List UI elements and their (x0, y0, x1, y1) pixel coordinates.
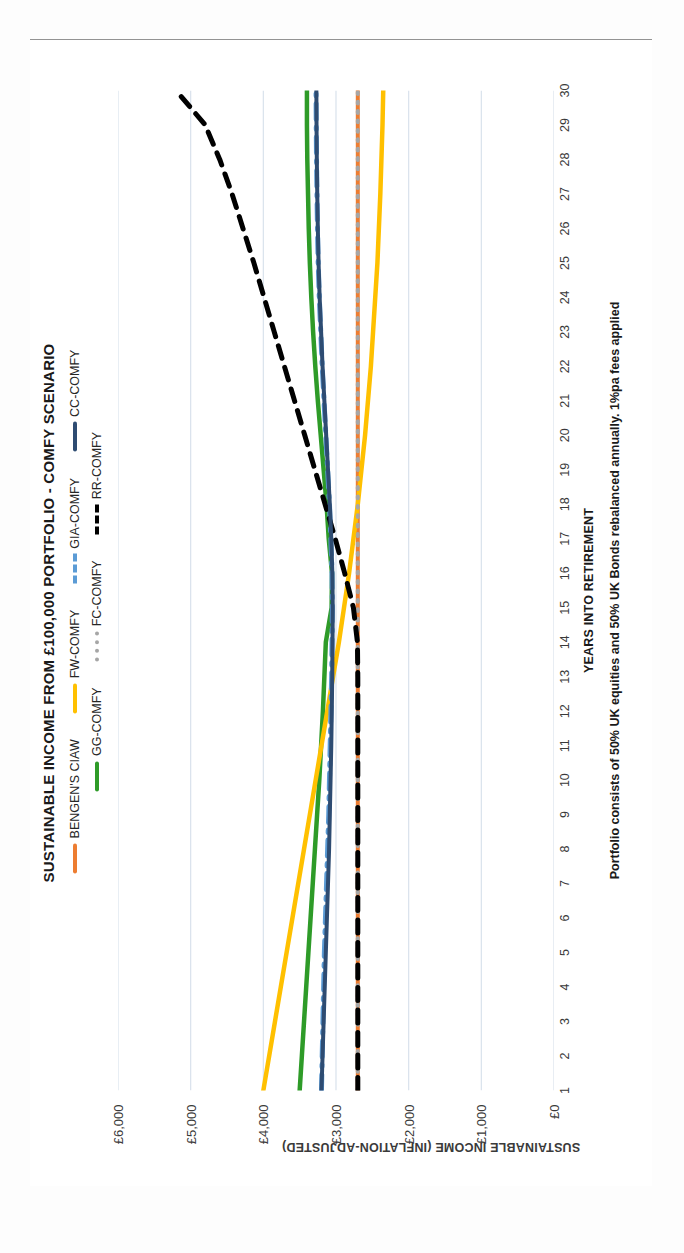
x-axis-tick-labels: 1234567891011121314151617181920212223242… (558, 90, 578, 1090)
x-tick-label: 6 (558, 914, 572, 921)
legend-swatch-fc-comfy (95, 631, 99, 661)
chart-title: SUSTAINABLE INCOME FROM £100,000 PORTFOL… (40, 39, 57, 1186)
x-tick-label: 9 (558, 811, 572, 818)
legend-swatch-cc-comfy (73, 421, 77, 451)
legend-item[interactable]: GIA-COMFY (68, 477, 82, 583)
legend-label: CC-COMFY (68, 349, 82, 416)
legend-swatch-fw-comfy (73, 683, 77, 713)
x-tick-label: 3 (558, 1018, 572, 1025)
legend-item[interactable]: RR-COMFY (90, 431, 104, 533)
legend-item[interactable]: FW-COMFY (68, 609, 82, 713)
x-tick-label: 17 (558, 531, 572, 545)
legend-item[interactable]: CC-COMFY (68, 349, 82, 451)
legend-row-1: BENGEN'S CIAWFW-COMFYGIA-COMFYCC-COMFY (64, 86, 86, 1136)
y-tick-label: £5,000 (183, 1104, 198, 1144)
legend-label: GIA-COMFY (68, 477, 82, 548)
y-tick-label: £2,000 (401, 1104, 416, 1144)
x-tick-label: 26 (558, 221, 572, 235)
legend-item[interactable]: BENGEN'S CIAW (68, 739, 82, 873)
legend-item[interactable]: FC-COMFY (90, 560, 104, 661)
x-axis-title: YEARS INTO RETIREMENT (582, 90, 596, 1090)
x-tick-label: 30 (558, 83, 572, 97)
x-tick-label: 14 (558, 635, 572, 649)
legend-item[interactable]: GG-COMFY (90, 687, 104, 791)
legend-label: FC-COMFY (90, 560, 104, 626)
legend-swatch-bengens-ciaw (73, 843, 77, 873)
chart-footnote: Portfolio consists of 50% UK equities an… (608, 90, 622, 1090)
legend-label: GG-COMFY (90, 687, 104, 756)
y-tick-label: £3,000 (329, 1104, 344, 1144)
scanned-page: SUSTAINABLE INCOME FROM £100,000 PORTFOL… (0, 0, 684, 1253)
x-tick-label: 4 (558, 983, 572, 990)
x-tick-label: 7 (558, 880, 572, 887)
x-tick-label: 12 (558, 704, 572, 718)
x-tick-label: 24 (558, 290, 572, 304)
y-axis-title: SUSTAINABLE INCOME (INFLATION-ADJUSTED) (213, 1139, 649, 1153)
x-tick-label: 22 (558, 359, 572, 373)
x-tick-label: 5 (558, 949, 572, 956)
plot-svg (118, 90, 554, 1090)
chart-legend: BENGEN'S CIAWFW-COMFYGIA-COMFYCC-COMFY G… (64, 86, 110, 1136)
x-tick-label: 10 (558, 773, 572, 787)
y-tick-label: £4,000 (256, 1104, 271, 1144)
line-chart: SUSTAINABLE INCOME FROM £100,000 PORTFOL… (30, 39, 652, 1186)
x-tick-label: 16 (558, 566, 572, 580)
x-tick-label: 2 (558, 1052, 572, 1059)
x-tick-label: 23 (558, 324, 572, 338)
legend-row-2: GG-COMFYFC-COMFYRR-COMFY (86, 86, 108, 1136)
x-tick-label: 21 (558, 393, 572, 407)
x-tick-label: 25 (558, 255, 572, 269)
legend-label: RR-COMFY (90, 431, 104, 498)
x-tick-label: 18 (558, 497, 572, 511)
x-tick-label: 27 (558, 187, 572, 201)
x-tick-label: 15 (558, 600, 572, 614)
x-tick-label: 29 (558, 118, 572, 132)
legend-label: FW-COMFY (68, 609, 82, 678)
y-tick-label: £1,000 (474, 1104, 489, 1144)
legend-swatch-rr-comfy (95, 504, 99, 534)
x-tick-label: 20 (558, 428, 572, 442)
x-tick-label: 28 (558, 152, 572, 166)
x-tick-label: 19 (558, 462, 572, 476)
plot-area (118, 90, 554, 1090)
y-tick-label: £0 (547, 1104, 562, 1118)
legend-label: BENGEN'S CIAW (68, 739, 82, 838)
x-tick-label: 11 (558, 739, 572, 752)
legend-swatch-gia-comfy (73, 553, 77, 583)
x-tick-label: 13 (558, 669, 572, 683)
x-tick-label: 1 (558, 1087, 572, 1094)
y-tick-label: £6,000 (111, 1104, 126, 1144)
legend-swatch-gg-comfy (95, 761, 99, 791)
rotated-chart-wrapper: SUSTAINABLE INCOME FROM £100,000 PORTFOL… (30, 39, 652, 1186)
x-tick-label: 8 (558, 845, 572, 852)
